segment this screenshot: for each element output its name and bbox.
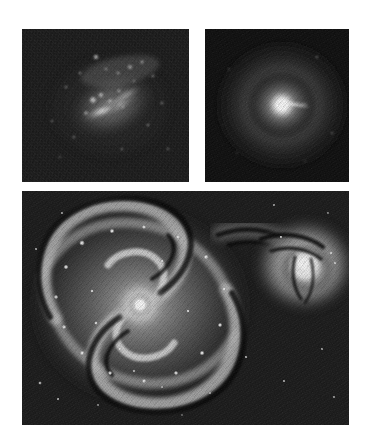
figure-plate [0,0,365,439]
panel-spiral-galaxy[interactable] [22,191,349,425]
irregular-grain-layer [22,29,189,182]
elliptical-grain-layer [205,29,349,182]
irregular-galaxy-image [22,29,189,182]
panel-elliptical-galaxy[interactable] [205,29,349,182]
spiral-grain-layer [22,191,349,425]
irregular-noise-layer [22,29,189,182]
spiral-galaxy-image [22,191,349,425]
panel-irregular-galaxy[interactable] [22,29,189,182]
spiral-noise-layer [22,191,349,425]
elliptical-noise-layer [205,29,349,182]
elliptical-galaxy-image [205,29,349,182]
